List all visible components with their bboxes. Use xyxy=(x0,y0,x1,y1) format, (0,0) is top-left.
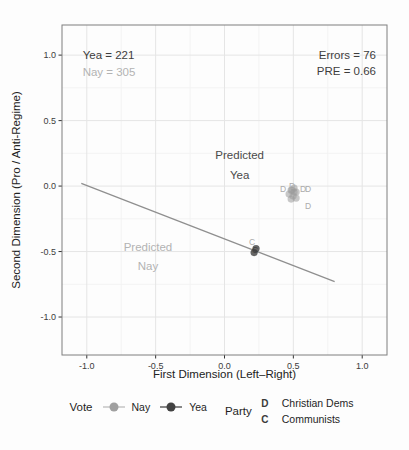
party-legend: Party D Christian Dems C Communists xyxy=(225,397,354,425)
yea-key-icon xyxy=(158,401,184,413)
annotation: Nay xyxy=(138,260,159,272)
y-tick-label: 0.0 xyxy=(43,181,56,191)
vote-nay-label: Nay xyxy=(132,401,151,413)
annotation: Yea xyxy=(230,169,250,181)
y-tick-label: 1.0 xyxy=(43,50,56,60)
y-tick-label: -0.5 xyxy=(40,247,56,257)
annotation: Predicted xyxy=(215,149,264,161)
roll-call-scatter-figure: -1.0-0.50.00.51.0-1.0-0.50.00.51.0DDDDDC… xyxy=(0,0,409,450)
y-tick-label: -1.0 xyxy=(40,312,56,322)
y-axis-title: Second Dimension (Pro / Anti-Regime) xyxy=(10,91,22,289)
party-key-d: D xyxy=(260,398,270,409)
vote-legend-item-nay: Nay xyxy=(101,401,151,413)
party-key-c: C xyxy=(260,414,270,425)
point-label-d: D xyxy=(280,184,286,194)
point-label-d: D xyxy=(305,184,311,194)
x-axis-title: First Dimension (Left–Right) xyxy=(62,368,387,380)
annotation: PRE = 0.66 xyxy=(317,65,376,77)
data-point-nay xyxy=(288,195,295,202)
plot-canvas: -1.0-0.50.00.51.0-1.0-0.50.00.51.0DDDDDC… xyxy=(0,0,409,395)
point-label-c: C xyxy=(252,245,258,255)
y-tick-label: 0.5 xyxy=(43,116,56,126)
vote-yea-label: Yea xyxy=(189,401,207,413)
party-legend-title: Party xyxy=(225,405,252,417)
vote-legend-item-yea: Yea xyxy=(158,401,207,413)
party-legend-item-d: D Christian Dems xyxy=(260,397,354,409)
party-legend-item-c: C Communists xyxy=(260,413,354,425)
annotation: Nay = 305 xyxy=(83,66,136,78)
nay-key-icon xyxy=(101,401,127,413)
annotation: Yea = 221 xyxy=(83,49,135,61)
vote-legend: Vote Nay Yea xyxy=(69,401,206,413)
point-label-d: D xyxy=(289,181,295,191)
point-label-d: D xyxy=(305,201,311,211)
party-label-christian-dems: Christian Dems xyxy=(282,397,354,409)
party-legend-rows: D Christian Dems C Communists xyxy=(260,397,354,425)
party-label-communists: Communists xyxy=(282,413,340,425)
annotation: Predicted xyxy=(124,241,173,253)
legend: Vote Nay Yea Party D Ch xyxy=(0,397,409,425)
vote-legend-title: Vote xyxy=(69,401,92,413)
annotation: Errors = 76 xyxy=(319,49,376,61)
